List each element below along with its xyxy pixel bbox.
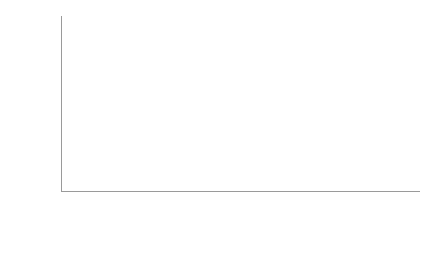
plot-area — [62, 16, 420, 191]
x-axis-tickmarks — [62, 191, 420, 195]
bar-series — [62, 16, 420, 191]
figure-container — [0, 0, 428, 273]
y-axis — [0, 16, 62, 191]
x-axis-labels — [62, 196, 420, 254]
